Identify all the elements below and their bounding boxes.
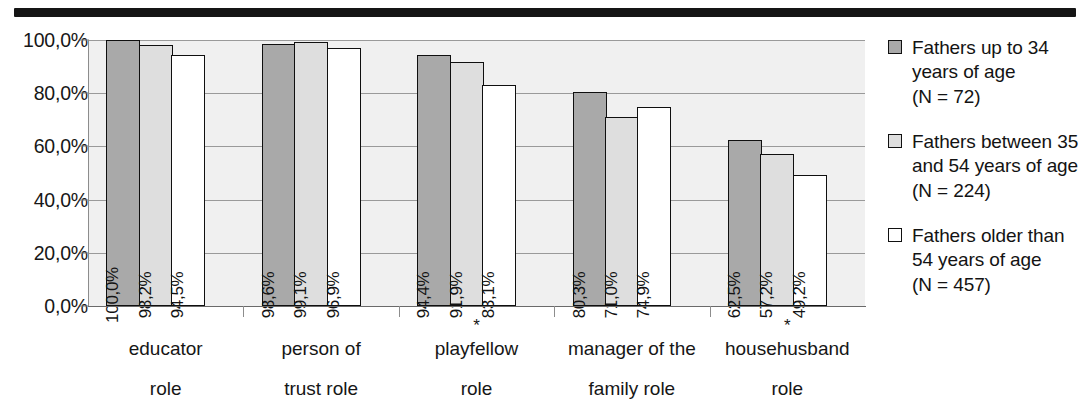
bar[interactable]: 94,4%	[417, 55, 451, 306]
y-axis-tick-label: 0,0%	[4, 295, 88, 318]
y-axis-tick-label: 60,0%	[4, 135, 88, 158]
category-label-line-1: playfellow	[399, 339, 554, 358]
bar[interactable]: 83,1%	[482, 85, 516, 306]
scan-artifact-top-bar	[14, 8, 1076, 17]
category-label-line-2: family role	[554, 379, 709, 398]
bar-value-label: 49,2%	[790, 272, 810, 319]
category-label-line-1: manager of the	[554, 339, 709, 358]
bar[interactable]: 98,2%	[139, 45, 173, 306]
grouped-bar-chart: 100,0%80,0%60,0%40,0%20,0%0,0% 100,0%98,…	[0, 22, 1088, 402]
legend-item[interactable]: Fathers between 35 and 54 years of age (…	[888, 130, 1088, 203]
bar-value-label: 99,1%	[291, 272, 311, 319]
category-label-line-2: trust role	[243, 379, 398, 398]
legend-swatch-icon	[888, 40, 902, 54]
bar[interactable]: 98,6%	[262, 44, 296, 306]
x-axis-line	[88, 306, 866, 307]
bar-value-label: 94,5%	[168, 272, 188, 319]
category-label-line-1: househusband	[710, 339, 865, 358]
x-axis-category-tick	[243, 306, 244, 317]
bar[interactable]: 100,0%	[106, 40, 140, 306]
bar-group: 100,0%98,2%94,5%	[106, 40, 205, 306]
plot-area: 100,0%98,2%94,5%98,6%99,1%96,9%94,4%91,9…	[88, 40, 865, 306]
y-axis-line	[88, 40, 89, 307]
category-label-line-1: educator	[88, 339, 243, 358]
bar[interactable]: 99,1%	[294, 42, 328, 306]
x-axis-category-label: *playfellowrole	[399, 318, 554, 398]
category-label-line-1: person of	[243, 339, 398, 358]
bar[interactable]: 94,5%	[171, 55, 205, 306]
category-label-line-2: role	[710, 379, 865, 398]
chart-legend: Fathers up to 34 years of age (N = 72)Fa…	[888, 36, 1088, 318]
y-axis-tick-label: 100,0%	[4, 29, 88, 52]
bar-group: 62,5%57,2%49,2%	[728, 40, 827, 306]
x-axis-category-label: *househusbandrole	[710, 318, 865, 398]
legend-swatch-icon	[888, 228, 902, 242]
legend-swatch-icon	[888, 134, 902, 148]
x-axis-category-label: *manager of thefamily role	[554, 318, 709, 398]
bar-group: 94,4%91,9%83,1%	[417, 40, 516, 306]
bar-value-label: 94,4%	[414, 272, 434, 319]
category-label-line-2: role	[88, 379, 243, 398]
x-axis-category-tick	[399, 306, 400, 317]
bar-group: 98,6%99,1%96,9%	[262, 40, 361, 306]
bar-value-label: 80,3%	[570, 272, 590, 319]
bar-value-label: 98,6%	[259, 272, 279, 319]
significance-asterisk: *	[710, 318, 865, 334]
y-axis-tick-label: 80,0%	[4, 82, 88, 105]
legend-label: Fathers between 35 and 54 years of age (…	[912, 131, 1078, 201]
bar[interactable]: 96,9%	[327, 48, 361, 306]
x-axis-category-label: *educatorrole	[88, 318, 243, 398]
legend-item[interactable]: Fathers older than 54 years of age (N = …	[888, 224, 1088, 297]
legend-label: Fathers up to 34 years of age (N = 72)	[912, 37, 1049, 107]
x-axis-category-label: *person oftrust role	[243, 318, 398, 398]
bar-value-label: 71,0%	[602, 272, 622, 319]
bar[interactable]: 91,9%	[450, 62, 484, 306]
bar-value-label: 74,9%	[634, 272, 654, 319]
x-axis-category-tick	[554, 306, 555, 317]
category-label-line-2: role	[399, 379, 554, 398]
y-axis-tick-label: 40,0%	[4, 188, 88, 211]
bar-group: 80,3%71,0%74,9%	[573, 40, 672, 306]
bar-value-label: 62,5%	[725, 272, 745, 319]
significance-asterisk: *	[399, 318, 554, 334]
y-axis: 100,0%80,0%60,0%40,0%20,0%0,0%	[0, 22, 88, 402]
legend-item[interactable]: Fathers up to 34 years of age (N = 72)	[888, 36, 1088, 109]
bar-value-label: 96,9%	[324, 272, 344, 319]
bar-value-label: 83,1%	[479, 272, 499, 319]
legend-label: Fathers older than 54 years of age (N = …	[912, 225, 1064, 295]
bar-value-label: 91,9%	[447, 272, 467, 319]
bar-value-label: 57,2%	[757, 272, 777, 319]
bar-value-label: 98,2%	[136, 272, 156, 319]
bar[interactable]: 74,9%	[637, 107, 671, 306]
y-axis-tick-label: 20,0%	[4, 241, 88, 264]
bar-value-label: 100,0%	[103, 267, 123, 323]
bar[interactable]: 49,2%	[793, 175, 827, 306]
x-axis-category-tick	[710, 306, 711, 317]
